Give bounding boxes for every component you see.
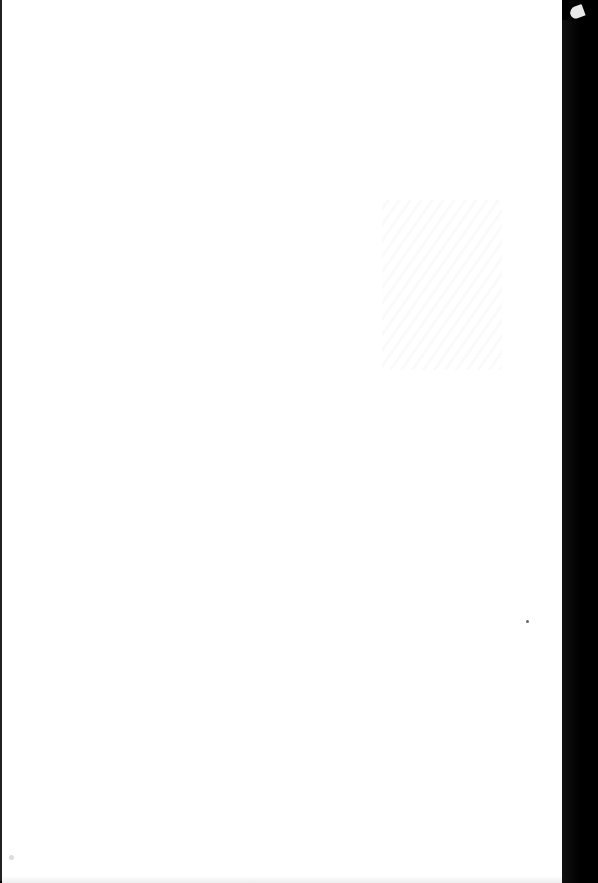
page-corner-curl (568, 4, 585, 20)
blank-page (0, 0, 562, 881)
dust-speck (526, 620, 529, 623)
scanner-background (562, 20, 580, 883)
dust-speck (9, 855, 14, 860)
bleed-through-text (382, 200, 502, 370)
page-bottom-edge (2, 876, 564, 883)
